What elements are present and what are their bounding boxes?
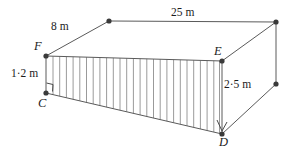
geometry-figure: F C E D 8 m 25 m 1·2 m 2·5 m — [0, 0, 284, 155]
dimension-label-25m: 25 m — [171, 7, 194, 19]
vertex-dot-back-top-right — [273, 19, 278, 24]
hatched-face — [46, 50, 222, 140]
edge-back-to-D — [222, 84, 276, 134]
vertex-dot-back-top-left — [106, 18, 111, 23]
vertex-label-f: F — [34, 40, 42, 53]
dimension-label-2-5m: 2·5 m — [224, 79, 251, 91]
dimension-label-1-2m: 1·2 m — [11, 68, 38, 80]
vertex-dot-F — [43, 53, 48, 58]
vertex-label-e: E — [214, 45, 222, 58]
edge-back-top — [109, 21, 276, 22]
vertex-label-d: D — [219, 136, 228, 149]
dimension-label-8m: 8 m — [51, 21, 69, 33]
vertex-dot-back-bottom-right — [273, 81, 278, 86]
vertex-dot-E — [219, 58, 224, 63]
vertex-label-c: C — [38, 97, 46, 110]
edge-back-to-E — [222, 22, 276, 61]
vertex-dot-C — [43, 90, 48, 95]
